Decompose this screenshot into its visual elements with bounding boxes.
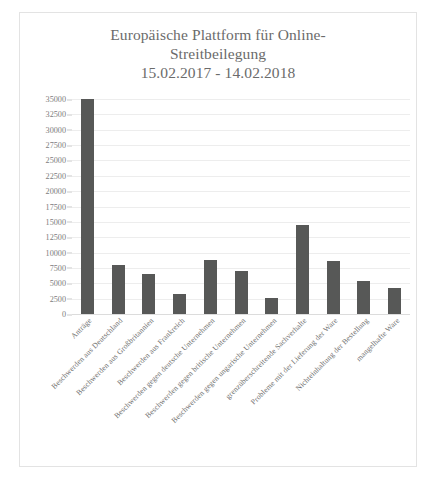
bar-slot: [349, 99, 380, 314]
y-axis-tick-label: 15000: [46, 217, 66, 226]
bar[interactable]: [235, 271, 248, 314]
y-axis-tick-label: 5000: [50, 279, 66, 288]
bar-slot: [256, 99, 287, 314]
chart-subtitle: 15.02.2017 - 14.02.2018: [20, 63, 416, 82]
y-axis-tick-label: 10000: [46, 248, 66, 257]
y-axis-tick-label: 30000: [46, 125, 66, 134]
chart-title: Europäische Plattform für Online- Streit…: [20, 25, 416, 82]
bar-slot: [72, 99, 103, 314]
bar-slot: [318, 99, 349, 314]
bar[interactable]: [327, 261, 340, 314]
chart-card: Europäische Plattform für Online- Streit…: [19, 12, 417, 467]
y-axis-tick-label: 27500: [46, 141, 66, 150]
bar-slot: [226, 99, 257, 314]
bar[interactable]: [173, 294, 186, 314]
plot-area: 3500032500300002750025000225002000017500…: [20, 99, 418, 337]
bar[interactable]: [142, 274, 155, 314]
y-axis-tick-label: 0: [62, 310, 66, 319]
bar-slot: [379, 99, 410, 314]
bar[interactable]: [112, 265, 125, 314]
bar-series: [72, 99, 410, 314]
y-axis-tick-label: 12500: [46, 233, 66, 242]
bar-slot: [287, 99, 318, 314]
gridline: [72, 314, 410, 315]
y-axis-tick-label: 7500: [50, 263, 66, 272]
y-axis-tick-label: 25000: [46, 156, 66, 165]
y-axis-tick-label: 17500: [46, 202, 66, 211]
chart-title-line-2: Streitbeilegung: [20, 44, 416, 63]
plot-canvas: [72, 99, 410, 314]
y-axis: 3500032500300002750025000225002000017500…: [20, 99, 72, 314]
y-axis-tick-label: 2500: [50, 294, 66, 303]
bar[interactable]: [204, 260, 217, 314]
x-axis-labels: AnträgeBeschwerden aus DeutschlandBeschw…: [72, 316, 410, 466]
y-axis-tick-label: 22500: [46, 171, 66, 180]
y-axis-tick-label: 35000: [46, 95, 66, 104]
bar[interactable]: [357, 281, 370, 314]
x-axis-tick-label: Anträge: [69, 316, 93, 340]
bar-slot: [133, 99, 164, 314]
y-axis-tick-label: 20000: [46, 187, 66, 196]
bar[interactable]: [265, 298, 278, 314]
bar[interactable]: [81, 99, 94, 314]
bar-slot: [164, 99, 195, 314]
bar[interactable]: [296, 225, 309, 314]
bar-slot: [195, 99, 226, 314]
bar-slot: [103, 99, 134, 314]
chart-title-line-1: Europäische Plattform für Online-: [20, 25, 416, 44]
bar[interactable]: [388, 288, 401, 314]
y-axis-tick-label: 32500: [46, 110, 66, 119]
